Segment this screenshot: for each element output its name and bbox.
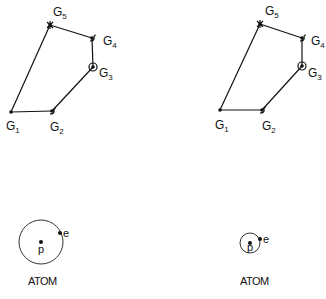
star-marker-icon [47, 21, 53, 29]
node-dot [90, 36, 94, 40]
edge-g5-g1 [11, 25, 50, 112]
node-g4: G4 [300, 34, 325, 50]
electron-dot [258, 237, 262, 241]
node-label-g2: G2 [262, 119, 276, 135]
star-marker-icon [257, 20, 263, 28]
node-label-g4: G4 [103, 34, 117, 50]
proton-label: p [38, 243, 44, 255]
node-g2: G2 [260, 107, 276, 135]
node-dot [218, 108, 222, 112]
node-label-g1: G1 [6, 119, 20, 135]
diagram-canvas: G1G2G3G4G5peATOM G1G2G3G4G5peATOM [0, 0, 326, 299]
edge-g1-g2 [11, 111, 52, 112]
node-label-g1: G1 [215, 118, 229, 134]
node-g3: G3 [89, 63, 113, 82]
node-g1: G1 [215, 108, 229, 134]
node-dot [91, 65, 95, 69]
node-dot [300, 36, 304, 40]
node-dot [50, 109, 54, 113]
node-g4: G4 [90, 34, 117, 50]
node-dot [9, 110, 13, 114]
atom-right: peATOM [240, 233, 269, 287]
node-label-g3: G3 [308, 66, 322, 82]
electron-label: e [263, 233, 269, 245]
node-label-g2: G2 [50, 120, 64, 136]
atom-left: peATOM [19, 220, 69, 287]
atom-caption: ATOM [240, 275, 269, 287]
node-label-g5: G5 [265, 4, 279, 20]
node-label-g5: G5 [53, 5, 67, 21]
node-g2: G2 [50, 108, 64, 136]
node-label-g3: G3 [99, 66, 113, 82]
node-dot [260, 108, 264, 112]
edge-g5-g1 [220, 24, 260, 110]
node-g1: G1 [6, 110, 20, 135]
node-dot [300, 64, 304, 68]
edge-g2-g3 [262, 66, 302, 110]
proton-label: p [247, 241, 253, 253]
electron-dot [58, 231, 62, 235]
edge-g4-g5 [260, 24, 302, 38]
edge-g4-g5 [50, 25, 92, 38]
edge-g2-g3 [52, 67, 93, 111]
node-label-g4: G4 [311, 34, 325, 50]
node-g5: G5 [47, 5, 67, 29]
atom-caption: ATOM [28, 275, 57, 287]
node-g3: G3 [298, 62, 322, 82]
electron-label: e [63, 227, 69, 239]
figure-left: G1G2G3G4G5peATOM [6, 5, 117, 287]
figure-right: G1G2G3G4G5peATOM [215, 4, 325, 287]
node-g5: G5 [257, 4, 279, 28]
